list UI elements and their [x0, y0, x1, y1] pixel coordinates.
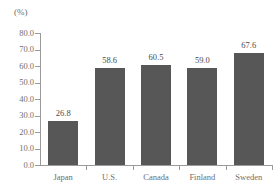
- y-axis-tick: [35, 50, 40, 51]
- bar-value-label: 67.6: [229, 40, 269, 50]
- bar: [234, 53, 264, 165]
- y-axis-tick: [35, 165, 40, 166]
- x-axis-tick: [133, 165, 134, 170]
- bar: [95, 68, 125, 165]
- x-axis-tick: [226, 165, 227, 170]
- x-axis-category-label: Finland: [176, 172, 228, 182]
- bar-value-label: 26.8: [43, 108, 83, 118]
- y-axis-tick-label-text: 20.0: [1, 127, 34, 137]
- bar-value-label: 58.6: [90, 55, 130, 65]
- y-axis-unit-label: (%): [14, 7, 28, 17]
- y-axis-tick-label-text: 70.0: [1, 44, 34, 54]
- y-axis-tick-label-text: 30.0: [1, 110, 34, 120]
- bar-value-label: 60.5: [136, 52, 176, 62]
- y-axis-tick-label-text: 40.0: [1, 94, 34, 104]
- y-axis-tick: [35, 116, 40, 117]
- y-axis-tick: [35, 83, 40, 84]
- y-axis-tick-label: 20.0: [0, 127, 34, 138]
- y-axis-tick: [35, 33, 40, 34]
- y-axis-tick-label: 70.0: [0, 44, 34, 55]
- y-axis-tick-label: 0.0: [0, 160, 34, 171]
- x-axis-line: [40, 165, 272, 166]
- y-axis-tick-label-text: 60.0: [1, 61, 34, 71]
- y-axis-tick-label-text: 50.0: [1, 77, 34, 87]
- x-axis-tick: [179, 165, 180, 170]
- bar: [141, 65, 171, 165]
- y-axis-tick-label-text: 0.0: [1, 160, 34, 170]
- x-axis-category-label: Canada: [130, 172, 182, 182]
- y-axis-tick-label: 80.0: [0, 28, 34, 39]
- y-axis-line: [40, 33, 41, 166]
- x-axis-category-label: Sweden: [223, 172, 275, 182]
- bar-chart: (%) 80.070.060.050.040.030.020.010.00.0 …: [0, 0, 279, 194]
- y-axis-tick: [35, 132, 40, 133]
- y-axis-tick-label: 50.0: [0, 77, 34, 88]
- x-axis-tick: [86, 165, 87, 170]
- y-axis-tick: [35, 99, 40, 100]
- bar: [187, 68, 217, 165]
- y-axis-tick-label: 40.0: [0, 94, 34, 105]
- bar: [48, 121, 78, 165]
- y-axis-tick-label: 30.0: [0, 110, 34, 121]
- y-axis-tick: [35, 66, 40, 67]
- y-axis-tick-label: 60.0: [0, 61, 34, 72]
- y-axis-tick-label: 10.0: [0, 143, 34, 154]
- y-axis-tick-label-text: 10.0: [1, 143, 34, 153]
- y-axis-tick-label-text: 80.0: [1, 28, 34, 38]
- bar-value-label: 59.0: [182, 55, 222, 65]
- y-axis-tick: [35, 149, 40, 150]
- x-axis-tick: [272, 165, 273, 170]
- x-axis-category-label: U.S.: [84, 172, 136, 182]
- x-axis-category-label: Japan: [37, 172, 89, 182]
